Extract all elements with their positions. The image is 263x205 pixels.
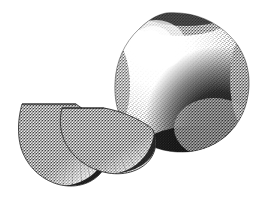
illustration-canvas: Whole round fruit with two cut wedges — [0, 0, 263, 205]
fruit-illustration-svg: Whole round fruit with two cut wedges — [0, 0, 263, 205]
